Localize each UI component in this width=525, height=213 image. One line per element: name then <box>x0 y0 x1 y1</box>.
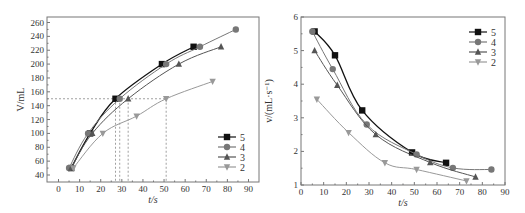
x-axis-label: t/s <box>148 194 158 205</box>
series-2 <box>314 97 470 185</box>
y-tick-label: 2 <box>294 146 299 156</box>
x-tick-label: 70 <box>455 187 465 197</box>
y-tick-label: 160 <box>31 87 45 97</box>
series-5 <box>68 44 197 172</box>
x-tick-label: 70 <box>202 184 212 194</box>
circle-marker-icon <box>197 44 203 50</box>
x-tick-label: 80 <box>223 184 233 194</box>
series-3 <box>311 47 478 180</box>
triangle-down-marker-icon <box>100 131 106 137</box>
x-tick-label: 30 <box>117 184 127 194</box>
y-tick-label: 80 <box>35 142 45 152</box>
circle-marker-icon <box>224 144 230 150</box>
x-tick-label: 20 <box>96 184 106 194</box>
y-tick-label: 5 <box>294 46 299 56</box>
triangle-down-marker-icon <box>382 160 388 166</box>
triangle-down-marker-icon <box>163 96 169 102</box>
series-line <box>315 31 446 162</box>
y-tick-label: 6 <box>294 12 299 22</box>
square-marker-icon <box>332 52 338 58</box>
y-tick-label: 240 <box>31 31 45 41</box>
x-tick-label: 10 <box>75 184 85 194</box>
y-tick-label: 180 <box>31 73 45 83</box>
x-tick-label: 60 <box>433 187 443 197</box>
legend-label: 2 <box>240 162 245 173</box>
circle-marker-icon <box>475 39 481 45</box>
x-tick-label: 20 <box>342 187 352 197</box>
series-line <box>312 31 491 169</box>
square-marker-icon <box>443 160 449 166</box>
square-marker-icon <box>224 134 230 140</box>
circle-marker-icon <box>309 28 315 34</box>
square-marker-icon <box>475 29 481 35</box>
y-tick-label: 120 <box>31 115 45 125</box>
series-3 <box>68 43 224 171</box>
legend-label: 2 <box>491 57 496 68</box>
circle-marker-icon <box>364 121 370 127</box>
series-line <box>315 51 476 177</box>
x-tick-label: 0 <box>299 187 304 197</box>
series-line <box>71 47 193 168</box>
x-tick-label: 30 <box>365 187 375 197</box>
circle-marker-icon <box>233 26 239 32</box>
y-tick-label: 60 <box>35 156 45 166</box>
x-tick-label: 10 <box>319 187 329 197</box>
y-tick-label: 40 <box>35 170 45 180</box>
square-marker-icon <box>359 107 365 113</box>
x-tick-label: 90 <box>244 184 254 194</box>
x-tick-label: 80 <box>478 187 488 197</box>
triangle-down-marker-icon <box>463 178 469 184</box>
circle-marker-icon <box>488 166 494 172</box>
series-line <box>317 99 467 181</box>
rate-time-chart: 0102030405060708090123456t/sv/(mL·s⁻¹)54… <box>263 12 510 208</box>
x-tick-label: 90 <box>501 187 511 197</box>
series-line <box>71 47 221 168</box>
triangle-down-marker-icon <box>133 113 139 119</box>
y-tick-label: 140 <box>31 101 45 111</box>
circle-marker-icon <box>330 66 336 72</box>
triangle-up-marker-icon <box>218 43 224 49</box>
x-tick-label: 0 <box>56 184 61 194</box>
triangle-up-marker-icon <box>125 95 131 101</box>
y-axis-label: V/mL <box>15 88 26 112</box>
figure: 0102030405060708090406080100120140160180… <box>0 0 525 213</box>
y-tick-label: 4 <box>294 79 299 89</box>
x-tick-label: 50 <box>160 184 170 194</box>
x-tick-label: 40 <box>138 184 148 194</box>
series-5 <box>311 28 449 166</box>
x-axis-label: t/s <box>398 197 408 208</box>
triangle-up-marker-icon <box>176 60 182 66</box>
volume-time-chart: 0102030405060708090406080100120140160180… <box>15 17 259 205</box>
y-tick-label: 200 <box>31 59 45 69</box>
x-tick-label: 60 <box>181 184 191 194</box>
circle-marker-icon <box>117 96 123 102</box>
y-tick-label: 260 <box>31 18 45 28</box>
y-tick-label: 220 <box>31 45 45 55</box>
x-tick-label: 50 <box>410 187 420 197</box>
legend: 5432 <box>218 132 245 173</box>
triangle-up-marker-icon <box>311 47 317 53</box>
y-tick-label: 100 <box>31 128 45 138</box>
x-tick-label: 40 <box>387 187 397 197</box>
y-tick-label: 3 <box>294 113 299 123</box>
legend: 5432 <box>469 27 496 68</box>
series-2 <box>70 79 216 172</box>
y-axis-label: v/(mL·s⁻¹) <box>263 79 275 123</box>
circle-marker-icon <box>163 61 169 67</box>
y-tick-label: 1 <box>294 180 299 190</box>
